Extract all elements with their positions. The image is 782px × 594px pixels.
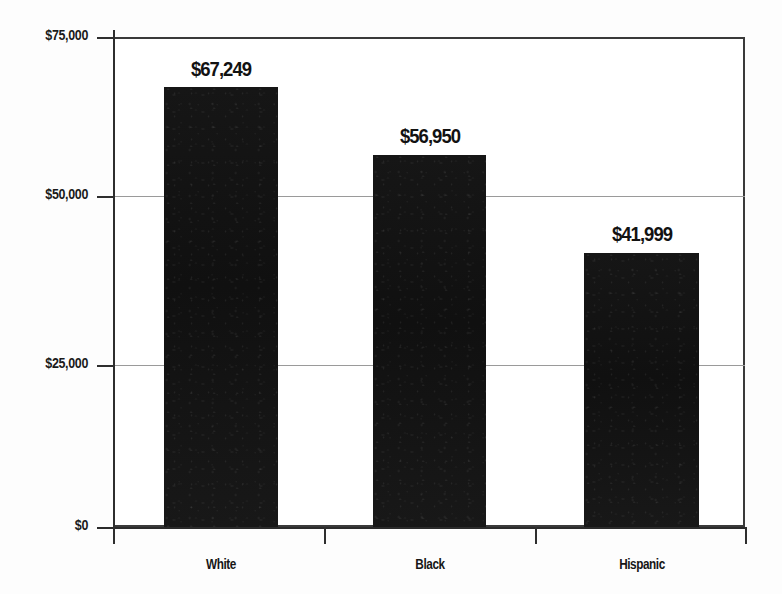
- category-label-white: White: [171, 556, 272, 572]
- value-label-white: $67,249: [151, 57, 292, 81]
- value-label-hispanic: $41,999: [572, 222, 713, 246]
- y-tick-mark-50000: [97, 196, 113, 198]
- x-tick-mark-end: [745, 527, 747, 544]
- y-axis-line: [113, 30, 115, 542]
- x-tick-mark-start: [113, 527, 115, 544]
- bar-black[interactable]: [373, 155, 486, 527]
- bar-chart: $75,000 $50,000 $25,000 $0 $67,249 $56,9…: [0, 0, 782, 594]
- category-label-hispanic: Hispanic: [592, 556, 693, 572]
- bar-white[interactable]: [164, 87, 278, 527]
- x-axis-line: [97, 527, 745, 529]
- x-tick-mark-black-hispanic: [535, 527, 537, 544]
- bar-hispanic[interactable]: [584, 253, 699, 527]
- y-axis-label-25000: $25,000: [12, 355, 88, 371]
- category-label-black: Black: [380, 556, 481, 572]
- y-axis-label-0: $0: [12, 517, 88, 533]
- value-label-black: $56,950: [360, 124, 501, 148]
- y-tick-mark-25000: [97, 365, 113, 367]
- y-axis-label-75000: $75,000: [12, 27, 88, 43]
- y-tick-mark-75000: [97, 37, 113, 39]
- y-axis-label-50000: $50,000: [12, 186, 88, 202]
- x-tick-mark-white-black: [324, 527, 326, 544]
